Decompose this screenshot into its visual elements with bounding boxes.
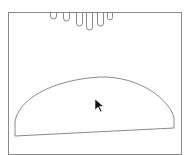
- drawing-canvas[interactable]: [0, 0, 186, 155]
